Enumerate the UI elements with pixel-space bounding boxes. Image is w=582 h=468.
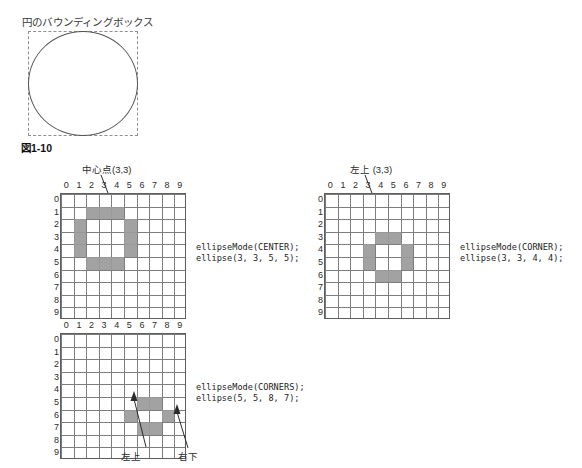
column-label-8: 8 bbox=[161, 320, 174, 331]
row-label-2: 2 bbox=[312, 218, 323, 231]
row-label-4: 4 bbox=[48, 243, 59, 256]
column-label-0: 0 bbox=[60, 180, 73, 191]
column-label-3: 3 bbox=[362, 180, 375, 191]
filled-cell-3-4 bbox=[363, 244, 376, 257]
column-label-8: 8 bbox=[425, 180, 438, 191]
column-label-2: 2 bbox=[85, 320, 98, 331]
row-label-0: 0 bbox=[312, 193, 323, 206]
filled-cell-2-5 bbox=[86, 257, 99, 270]
column-label-2: 2 bbox=[85, 180, 98, 191]
row-label-3: 3 bbox=[48, 371, 59, 384]
row-label-1: 1 bbox=[312, 206, 323, 219]
column-label-3: 3 bbox=[98, 320, 111, 331]
filled-cell-5-3 bbox=[388, 232, 401, 245]
filled-cell-4-3 bbox=[375, 232, 388, 245]
row-label-1: 1 bbox=[48, 346, 59, 359]
code-line-1: ellipseMode(CORNER); bbox=[460, 242, 563, 252]
column-label-4: 4 bbox=[374, 180, 387, 191]
column-label-1: 1 bbox=[73, 320, 86, 331]
column-label-9: 9 bbox=[437, 180, 450, 191]
column-label-9: 9 bbox=[173, 180, 186, 191]
column-label-1: 1 bbox=[73, 180, 86, 191]
column-label-6: 6 bbox=[400, 180, 413, 191]
filled-cell-5-6 bbox=[388, 270, 401, 283]
bounding-box-title: 円のバウンディングボックス bbox=[22, 14, 154, 29]
row-label-9: 9 bbox=[312, 306, 323, 319]
row-label-3: 3 bbox=[48, 231, 59, 244]
filled-cell-3-1 bbox=[99, 207, 112, 220]
column-label-3: 3 bbox=[98, 180, 111, 191]
row-label-7: 7 bbox=[48, 281, 59, 294]
filled-cell-2-1 bbox=[86, 207, 99, 220]
code-line-1: ellipseMode(CENTER); bbox=[196, 242, 299, 252]
filled-cell-4-5 bbox=[111, 257, 124, 270]
top-left-point-label: 左上 (3,3) bbox=[350, 162, 392, 176]
row-label-9: 9 bbox=[48, 446, 59, 459]
filled-cell-3-5 bbox=[363, 257, 376, 270]
filled-cell-6-4 bbox=[401, 244, 414, 257]
filled-cell-4-6 bbox=[375, 270, 388, 283]
row-label-8: 8 bbox=[48, 294, 59, 307]
row-label-8: 8 bbox=[312, 294, 323, 307]
column-label-1: 1 bbox=[337, 180, 350, 191]
column-label-5: 5 bbox=[123, 320, 136, 331]
figure-caption: 図1-10 bbox=[21, 140, 52, 155]
corners-bottom-right-label: 右下 bbox=[178, 449, 198, 463]
column-label-9: 9 bbox=[173, 320, 186, 331]
pixel-grid bbox=[324, 193, 450, 319]
row-label-6: 6 bbox=[48, 269, 59, 282]
row-label-5: 5 bbox=[312, 256, 323, 269]
row-label-1: 1 bbox=[48, 206, 59, 219]
code-snippet-center: ellipseMode(CENTER); ellipse(3, 3, 5, 5)… bbox=[196, 242, 299, 264]
row-label-6: 6 bbox=[312, 269, 323, 282]
filled-cell-1-4 bbox=[74, 244, 87, 257]
code-line-2: ellipse(5, 5, 8, 7); bbox=[196, 393, 299, 403]
filled-cell-1-2 bbox=[74, 219, 87, 232]
top-left-corner-arrow bbox=[126, 389, 158, 449]
filled-cell-3-5 bbox=[99, 257, 112, 270]
bottom-right-corner-arrow bbox=[168, 402, 200, 450]
code-snippet-corners: ellipseMode(CORNERS); ellipse(5, 5, 8, 7… bbox=[196, 382, 305, 404]
row-label-5: 5 bbox=[48, 256, 59, 269]
row-label-7: 7 bbox=[48, 421, 59, 434]
row-label-3: 3 bbox=[312, 231, 323, 244]
filled-cell-5-4 bbox=[124, 244, 137, 257]
pixel-grid bbox=[60, 193, 186, 319]
filled-cell-4-1 bbox=[111, 207, 124, 220]
row-label-2: 2 bbox=[48, 218, 59, 231]
filled-cell-5-2 bbox=[124, 219, 137, 232]
row-label-0: 0 bbox=[48, 193, 59, 206]
column-label-5: 5 bbox=[387, 180, 400, 191]
filled-cell-5-3 bbox=[124, 232, 137, 245]
code-line-1: ellipseMode(CORNERS); bbox=[196, 382, 305, 392]
row-label-5: 5 bbox=[48, 396, 59, 409]
column-label-4: 4 bbox=[110, 180, 123, 191]
inscribed-circle bbox=[28, 31, 138, 136]
code-line-2: ellipse(3, 3, 4, 4); bbox=[460, 253, 563, 263]
column-label-4: 4 bbox=[110, 320, 123, 331]
row-label-0: 0 bbox=[48, 333, 59, 346]
code-line-2: ellipse(3, 3, 5, 5); bbox=[196, 253, 299, 263]
column-label-7: 7 bbox=[148, 320, 161, 331]
filled-cell-6-5 bbox=[401, 257, 414, 270]
column-label-6: 6 bbox=[136, 180, 149, 191]
row-label-4: 4 bbox=[312, 243, 323, 256]
column-label-0: 0 bbox=[324, 180, 337, 191]
column-label-6: 6 bbox=[136, 320, 149, 331]
center-point-label: 中心点(3,3) bbox=[82, 162, 132, 176]
code-snippet-corner: ellipseMode(CORNER); ellipse(3, 3, 4, 4)… bbox=[460, 242, 563, 264]
row-label-6: 6 bbox=[48, 409, 59, 422]
row-label-9: 9 bbox=[48, 306, 59, 319]
filled-cell-1-3 bbox=[74, 232, 87, 245]
row-label-2: 2 bbox=[48, 358, 59, 371]
row-label-7: 7 bbox=[312, 281, 323, 294]
column-label-5: 5 bbox=[123, 180, 136, 191]
column-label-7: 7 bbox=[412, 180, 425, 191]
column-label-2: 2 bbox=[349, 180, 362, 191]
row-label-4: 4 bbox=[48, 383, 59, 396]
column-label-8: 8 bbox=[161, 180, 174, 191]
row-label-8: 8 bbox=[48, 434, 59, 447]
column-label-7: 7 bbox=[148, 180, 161, 191]
corners-top-left-label: 左上 bbox=[121, 449, 141, 463]
column-label-0: 0 bbox=[60, 320, 73, 331]
